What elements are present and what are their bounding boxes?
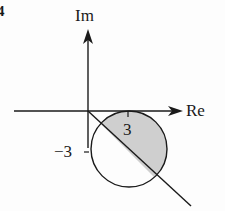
real-axis-label: Re	[186, 101, 205, 121]
figure-number: 4	[0, 3, 5, 20]
y-tick-label: −3	[54, 142, 72, 162]
x-tick-label: 3	[123, 120, 132, 140]
imaginary-axis-label: Im	[75, 6, 94, 26]
